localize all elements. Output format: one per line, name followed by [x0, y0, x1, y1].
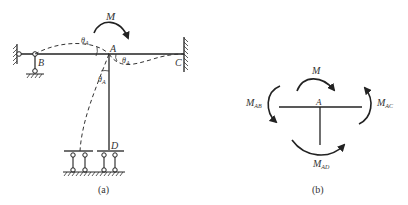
figure-b: A M MAB MAC MAD (b)	[245, 65, 394, 196]
theta-label-right: θA	[122, 56, 130, 66]
moment-mac-arrow	[359, 88, 371, 124]
moment-m-label-b: M	[311, 65, 321, 76]
diagram-canvas: M θA θA θA A B C D (a) A M MAB MAC MAD (…	[0, 0, 408, 205]
joint-d-label: D	[110, 140, 119, 151]
moment-m-label: M	[105, 10, 116, 22]
figure-a: M θA θA θA A B C D (a)	[13, 10, 188, 196]
support-c	[184, 37, 188, 72]
moment-mab-arrow	[268, 86, 280, 122]
moment-m-arrow-b	[297, 79, 334, 91]
theta-label-bottom: θA	[98, 75, 106, 85]
joint-a-label: A	[109, 43, 117, 54]
joint-b-label: B	[38, 57, 44, 68]
caption-b: (b)	[312, 184, 324, 196]
moment-mad-arrow	[292, 140, 344, 155]
moment-m-arrow	[94, 22, 128, 38]
joint-c-label: C	[175, 57, 182, 68]
support-d	[63, 151, 125, 176]
theta-label-left: θA	[81, 36, 89, 46]
caption-a: (a)	[98, 184, 109, 196]
moment-mab-label: MAB	[245, 97, 262, 109]
moment-mac-label: MAC	[376, 97, 394, 109]
moment-mad-label: MAD	[312, 158, 330, 170]
joint-a-label-b: A	[315, 97, 322, 107]
